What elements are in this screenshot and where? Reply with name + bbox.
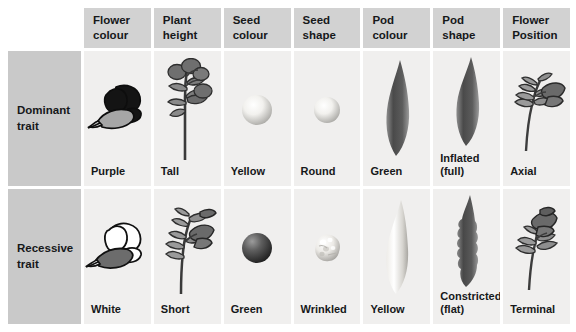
cell-recessive-pod-shape: Constricted (flat) — [433, 189, 500, 324]
column-header-plant-height: Plant height — [154, 8, 221, 48]
cell-recessive-flower-position: Terminal — [503, 189, 570, 324]
trait-label: Constricted (flat) — [433, 290, 500, 318]
row-header-dominant-trait: Dominant trait — [8, 51, 81, 186]
green-pod-icon — [363, 51, 430, 165]
trait-label: Yellow — [363, 303, 430, 317]
trait-label: Green — [224, 303, 291, 317]
column-header-line2: colour — [372, 28, 407, 43]
constricted-pod-icon — [433, 189, 500, 290]
green-seed-icon — [224, 189, 291, 303]
trait-label: Wrinkled — [294, 303, 361, 317]
round-seed-icon — [294, 51, 361, 165]
trait-label: White — [84, 303, 151, 317]
cell-recessive-flower-colour: White — [84, 189, 151, 324]
trait-label: Tall — [154, 165, 221, 179]
yellow-seed-icon — [224, 51, 291, 165]
cell-recessive-seed-shape: Wrinkled — [294, 189, 361, 324]
trait-label-sub: (full) — [440, 165, 500, 179]
inflated-pod-icon — [433, 51, 500, 152]
mendel-traits-table: Flower colour Plant height Seed colour S… — [0, 0, 576, 332]
column-header-flower-colour: Flower colour — [84, 8, 151, 48]
column-header-line2: height — [163, 28, 198, 43]
trait-label-sub: (flat) — [440, 303, 500, 317]
column-header-line1: Flower — [93, 13, 130, 28]
cell-dominant-pod-colour: Green — [363, 51, 430, 186]
cell-dominant-pod-shape: Inflated (full) — [433, 51, 500, 186]
trait-label: Yellow — [224, 165, 291, 179]
column-header-flower-position: Flower Position — [503, 8, 570, 48]
traits-grid: Flower colour Plant height Seed colour S… — [8, 8, 570, 324]
trait-label: Short — [154, 303, 221, 317]
column-header-line1: Pod — [442, 13, 464, 28]
wrinkled-seed-icon — [294, 189, 361, 303]
trait-label: Green — [363, 165, 430, 179]
column-header-line1: Plant — [163, 13, 191, 28]
yellow-pod-icon — [363, 189, 430, 303]
cell-dominant-flower-colour: Purple — [84, 51, 151, 186]
column-header-pod-shape: Pod shape — [433, 8, 500, 48]
column-header-line2: shape — [442, 28, 475, 43]
tall-plant-icon — [154, 51, 221, 165]
trait-label: Terminal — [503, 303, 570, 317]
row-header-line2: trait — [17, 257, 39, 272]
column-header-line2: Position — [512, 28, 557, 43]
column-header-line1: Pod — [372, 13, 394, 28]
trait-label-main: Inflated — [440, 152, 479, 164]
cell-dominant-plant-height: Tall — [154, 51, 221, 186]
trait-label: Axial — [503, 165, 570, 179]
trait-label-main: Constricted — [440, 290, 500, 302]
trait-label: Purple — [84, 165, 151, 179]
cell-dominant-flower-position: Axial — [503, 51, 570, 186]
white-flower-icon — [84, 189, 151, 303]
trait-label: Inflated (full) — [433, 152, 500, 180]
axial-flower-position-icon — [503, 51, 570, 165]
column-header-line1: Seed — [233, 13, 261, 28]
terminal-flower-position-icon — [503, 189, 570, 303]
column-header-line2: shape — [303, 28, 336, 43]
purple-flower-icon — [84, 51, 151, 165]
column-header-line2: colour — [233, 28, 268, 43]
column-header-seed-colour: Seed colour — [224, 8, 291, 48]
column-header-seed-shape: Seed shape — [294, 8, 361, 48]
cell-recessive-plant-height: Short — [154, 189, 221, 324]
cell-dominant-seed-colour: Yellow — [224, 51, 291, 186]
row-header-line1: Recessive — [17, 241, 73, 256]
trait-label: Round — [294, 165, 361, 179]
column-header-line1: Seed — [303, 13, 331, 28]
row-header-line2: trait — [17, 119, 39, 134]
row-header-line1: Dominant — [17, 103, 70, 118]
row-header-recessive-trait: Recessive trait — [8, 189, 81, 324]
column-header-line1: Flower — [512, 13, 549, 28]
cell-dominant-seed-shape: Round — [294, 51, 361, 186]
grid-corner-blank — [8, 8, 81, 48]
column-header-line2: colour — [93, 28, 128, 43]
cell-recessive-seed-colour: Green — [224, 189, 291, 324]
column-header-pod-colour: Pod colour — [363, 8, 430, 48]
cell-recessive-pod-colour: Yellow — [363, 189, 430, 324]
short-plant-icon — [154, 189, 221, 303]
